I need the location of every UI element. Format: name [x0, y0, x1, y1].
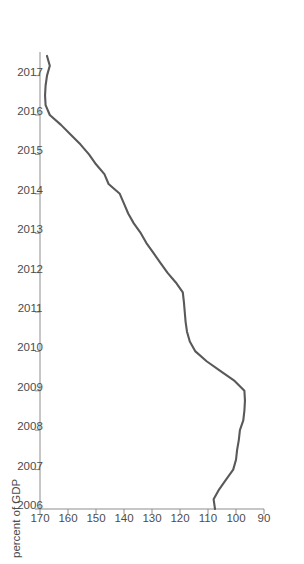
x-axis-tick-label: 2016: [17, 105, 43, 117]
data-series-line: [45, 56, 245, 509]
y-axis-label: percent of GDP: [10, 478, 22, 558]
y-axis-tick-label: 140: [114, 512, 133, 524]
x-axis-tick-label: 2015: [17, 144, 43, 156]
x-axis-tick-label: 2017: [17, 66, 43, 78]
y-axis-tick-label: 150: [86, 512, 105, 524]
y-axis-tick-label: 120: [170, 512, 189, 524]
x-axis-tick-label: 2006: [17, 499, 43, 511]
y-axis-ticks: 17016015014013012011010090: [30, 509, 270, 524]
x-axis-tick-label: 2011: [18, 302, 43, 314]
y-axis-tick-label: 90: [258, 512, 271, 524]
x-axis-tick-label: 2013: [17, 223, 43, 235]
rotated-chart-container: percent of GDP 2006200720082009201020112…: [0, 0, 304, 564]
x-axis-tick-label: 2010: [17, 341, 43, 353]
line-chart-plot: percent of GDP 2006200720082009201020112…: [0, 0, 304, 564]
y-axis-tick-label: 170: [30, 512, 49, 524]
x-axis-ticks: 2006200720082009201020112012201320142015…: [17, 66, 43, 511]
x-axis-tick-label: 2009: [17, 381, 43, 393]
chart-figure: percent of GDP 2006200720082009201020112…: [0, 0, 304, 564]
y-axis-tick-label: 130: [142, 512, 161, 524]
axes-group: [40, 52, 264, 509]
y-axis-tick-label: 100: [226, 512, 245, 524]
x-axis-tick-label: 2014: [17, 184, 43, 196]
x-axis-tick-label: 2007: [17, 460, 43, 472]
y-axis-tick-label: 110: [199, 512, 217, 524]
x-axis-tick-label: 2012: [17, 263, 43, 275]
y-axis-tick-label: 160: [58, 512, 77, 524]
x-axis-tick-label: 2008: [17, 420, 43, 432]
